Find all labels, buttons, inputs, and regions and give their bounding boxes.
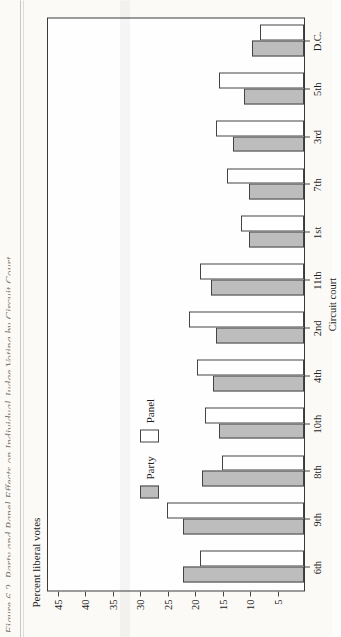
- y-tick-label-15: 15: [217, 599, 228, 610]
- x-tick: [305, 183, 310, 184]
- legend-label-panel: Panel: [144, 398, 156, 422]
- x-axis: Circuit court 6th9th8th10th4th2nd11th1st…: [305, 17, 341, 591]
- bar-party-7th: [249, 183, 304, 199]
- x-axis-title: Circuit court: [327, 17, 338, 591]
- y-tick: [223, 591, 224, 596]
- y-tick-label-40: 40: [80, 599, 91, 610]
- plot-area: PartyPanel: [47, 17, 305, 591]
- x-tick-label-10th: 10th: [312, 414, 323, 433]
- x-tick-label-8th: 8th: [312, 465, 323, 478]
- x-tick: [305, 470, 310, 471]
- y-tick: [168, 591, 169, 596]
- y-tick-label-45: 45: [52, 599, 63, 610]
- x-tick: [305, 136, 310, 137]
- x-tick-label-7th: 7th: [312, 178, 323, 191]
- x-tick-label-6th: 6th: [312, 560, 323, 573]
- bar-panel-6th: [200, 550, 304, 566]
- legend-swatch-panel: [140, 429, 159, 442]
- bar-panel-dc: [260, 24, 304, 40]
- x-tick-label-5th: 5th: [312, 82, 323, 95]
- y-axis-title: Percent liberal votes: [30, 517, 42, 607]
- x-tick: [305, 375, 310, 376]
- bar-party-dc: [252, 40, 304, 56]
- x-tick: [305, 566, 310, 567]
- legend: PartyPanel: [140, 398, 159, 498]
- x-tick-label-dc: D.C.: [312, 31, 323, 51]
- y-tick: [195, 591, 196, 596]
- y-tick-label-20: 20: [190, 599, 201, 610]
- x-tick-label-4th: 4th: [312, 369, 323, 382]
- bar-party-1st: [249, 231, 304, 247]
- bar-party-9th: [183, 518, 304, 534]
- bar-panel-8th: [222, 455, 304, 471]
- bar-panel-4th: [197, 359, 304, 375]
- x-tick: [305, 279, 310, 280]
- legend-label-party: Party: [144, 456, 156, 479]
- y-tick: [113, 591, 114, 596]
- page-rule-secondary: [23, 0, 24, 637]
- x-tick-label-3rd: 3rd: [312, 130, 323, 144]
- bar-panel-11th: [200, 263, 304, 279]
- bars-container: [48, 18, 304, 590]
- bar-panel-2nd: [189, 311, 304, 327]
- x-tick: [305, 327, 310, 328]
- x-tick: [305, 231, 310, 232]
- y-tick-label-10: 10: [245, 599, 256, 610]
- y-tick-label-35: 35: [107, 599, 118, 610]
- x-tick-label-9th: 9th: [312, 513, 323, 526]
- legend-swatch-party: [140, 485, 159, 498]
- bar-party-2nd: [216, 327, 304, 343]
- bar-panel-7th: [227, 168, 304, 184]
- x-tick-label-2nd: 2nd: [312, 320, 323, 336]
- y-tick-label-5: 5: [272, 599, 283, 604]
- bar-party-5th: [244, 88, 304, 104]
- y-axis: 51015202530354045: [47, 591, 305, 637]
- bar-party-4th: [213, 375, 304, 391]
- bar-party-6th: [183, 566, 304, 582]
- bar-panel-1st: [241, 215, 304, 231]
- x-tick-label-11th: 11th: [312, 271, 323, 289]
- y-tick: [140, 591, 141, 596]
- bar-party-8th: [202, 470, 304, 486]
- x-tick: [305, 40, 310, 41]
- y-tick: [58, 591, 59, 596]
- y-tick-label-25: 25: [162, 599, 173, 610]
- y-tick: [85, 591, 86, 596]
- bar-panel-3rd: [216, 120, 304, 136]
- x-tick: [305, 518, 310, 519]
- bar-panel-9th: [167, 502, 304, 518]
- y-tick: [250, 591, 251, 596]
- figure-caption: Figure 6.2. Party and Panel Effects on I…: [4, 256, 16, 633]
- bar-panel-10th: [205, 407, 304, 423]
- bar-party-11th: [211, 279, 304, 295]
- bar-party-10th: [219, 423, 304, 439]
- bar-party-3rd: [233, 136, 304, 152]
- x-tick: [305, 88, 310, 89]
- legend-item-panel: Panel: [140, 398, 159, 441]
- legend-item-party: Party: [140, 456, 159, 498]
- x-tick: [305, 423, 310, 424]
- x-tick-label-1st: 1st: [312, 226, 323, 238]
- bar-panel-5th: [219, 72, 304, 88]
- page-rule: [20, 0, 21, 637]
- y-tick: [278, 591, 279, 596]
- y-tick-label-30: 30: [135, 599, 146, 610]
